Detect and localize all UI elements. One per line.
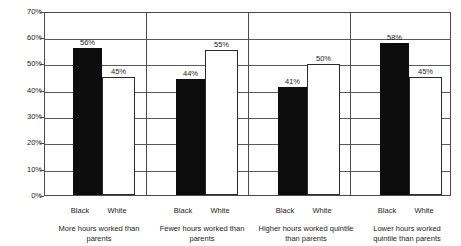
category-label-group-4: Lower hours worked quintile than parents <box>357 224 457 244</box>
category-label-group-3-line2: than parents <box>246 234 366 244</box>
bar-value-label-white-group-1: 45% <box>96 67 141 76</box>
y-tick-label-60: 60% <box>4 34 42 42</box>
bar-value-label-white-group-4: 45% <box>403 67 448 76</box>
bar-black-group-3[interactable] <box>278 87 307 195</box>
series-label-white-group-2: White <box>205 206 235 215</box>
category-label-group-2: Fewer hours worked than parents <box>144 224 260 244</box>
y-tick-label-40: 40% <box>4 87 42 95</box>
category-label-group-1: More hours worked than parents <box>42 224 156 244</box>
y-tick-mark-0 <box>40 196 44 197</box>
category-label-group-4-line1: Lower hours worked <box>357 224 457 234</box>
group-separator-1 <box>146 13 147 195</box>
bar-black-group-4[interactable] <box>380 43 409 195</box>
bar-value-label-black-group-4: 58% <box>372 33 417 42</box>
y-tick-label-20: 20% <box>4 139 42 147</box>
bar-value-label-black-group-2: 44% <box>168 69 213 78</box>
category-label-group-4-line2: quintile than parents <box>357 234 457 244</box>
bar-white-group-1[interactable] <box>102 77 135 195</box>
series-label-black-group-3: Black <box>270 206 300 215</box>
series-label-black-group-4: Black <box>372 206 402 215</box>
bar-value-label-black-group-3: 41% <box>270 77 315 86</box>
y-tick-label-70: 70% <box>4 8 42 16</box>
y-tick-label-10: 10% <box>4 166 42 174</box>
bar-black-group-2[interactable] <box>176 79 205 195</box>
bar-chart: 70% 60% 50% 40% 30% 20% 10% 0% 56% 45% <box>0 0 461 246</box>
category-label-group-2-line1: Fewer hours worked than <box>144 224 260 234</box>
category-label-group-1-line1: More hours worked than <box>42 224 156 234</box>
y-tick-label-0: 0% <box>4 192 42 200</box>
bar-white-group-4[interactable] <box>409 77 442 195</box>
bar-value-label-white-group-2: 55% <box>199 40 244 49</box>
category-label-group-1-line2: parents <box>42 234 156 244</box>
category-label-group-3: Higher hours worked quintile than parent… <box>246 224 366 244</box>
series-label-black-group-1: Black <box>65 206 95 215</box>
plot-area: 56% 45% 44% 55% 41% 50% 58% 45% <box>44 12 451 196</box>
y-tick-label-50: 50% <box>4 60 42 68</box>
y-axis: 70% 60% 50% 40% 30% 20% 10% 0% <box>0 0 42 246</box>
group-separator-2 <box>248 13 249 195</box>
bar-value-label-white-group-3: 50% <box>301 54 346 63</box>
series-label-white-group-3: White <box>307 206 337 215</box>
category-label-group-2-line2: parents <box>144 234 260 244</box>
category-label-group-3-line1: Higher hours worked quintile <box>246 224 366 234</box>
y-tick-label-30: 30% <box>4 113 42 121</box>
series-label-white-group-4: White <box>409 206 439 215</box>
bar-value-label-black-group-1: 56% <box>65 38 110 47</box>
group-separator-3 <box>350 13 351 195</box>
series-label-black-group-2: Black <box>168 206 198 215</box>
series-label-white-group-1: White <box>102 206 132 215</box>
